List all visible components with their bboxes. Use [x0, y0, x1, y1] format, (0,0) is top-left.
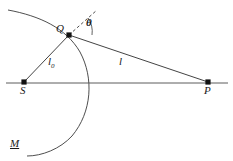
label-point-P: P [204, 85, 211, 96]
label-angle-theta: θ [86, 17, 92, 28]
ray-segment-SQ [24, 35, 69, 82]
label-point-S: S [20, 85, 26, 96]
point-marker-Q [66, 32, 71, 37]
label-point-Q: Q [56, 23, 64, 34]
label-distance-l0: l0 [48, 56, 55, 70]
ray-segment-QP [69, 35, 208, 82]
normal-dashed-line [69, 10, 97, 35]
label-distance-l: l [119, 56, 122, 67]
label-wavefront-M: M [10, 138, 19, 149]
figure-canvas [0, 0, 233, 161]
label-distance-l0-subscript: 0 [51, 62, 55, 70]
geometry-figure: S Q P M l0 l θ [0, 0, 233, 161]
